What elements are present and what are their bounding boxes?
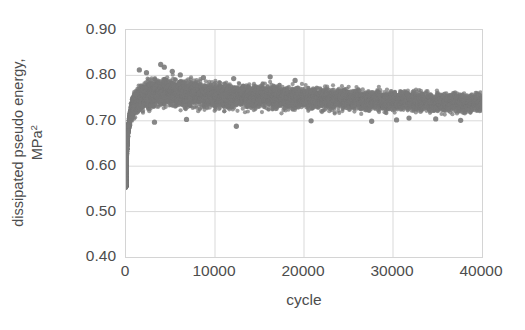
y-tick-label: 0.70 bbox=[86, 111, 116, 129]
x-axis-title: cycle bbox=[125, 291, 483, 309]
y-axis-title: dissipated pseudo energy, MPa2 bbox=[0, 0, 56, 285]
y-axis-title-line2: MPa2 bbox=[27, 58, 47, 226]
y-tick-label: 0.50 bbox=[86, 202, 116, 220]
x-axis-tick-labels: 010000200003000040000 bbox=[0, 262, 525, 288]
y-tick-label: 0.60 bbox=[86, 156, 116, 174]
y-axis-title-line1: dissipated pseudo energy, bbox=[9, 58, 25, 226]
x-tick-label: 0 bbox=[121, 262, 130, 280]
plot-area bbox=[125, 29, 483, 258]
x-tick-label: 10000 bbox=[192, 262, 235, 280]
y-axis-title-text: dissipated pseudo energy, MPa2 bbox=[9, 58, 46, 226]
x-tick-label: 40000 bbox=[459, 262, 502, 280]
scatter-series bbox=[126, 30, 482, 257]
y-axis-title-superscript: 2 bbox=[27, 125, 38, 130]
y-axis-title-line2-base: MPa bbox=[29, 130, 45, 160]
chart-figure: dissipated pseudo energy, MPa2 0.400.500… bbox=[0, 0, 525, 330]
y-tick-label: 0.90 bbox=[86, 20, 116, 38]
x-tick-label: 30000 bbox=[370, 262, 413, 280]
x-tick-label: 20000 bbox=[281, 262, 324, 280]
y-tick-label: 0.80 bbox=[86, 65, 116, 83]
